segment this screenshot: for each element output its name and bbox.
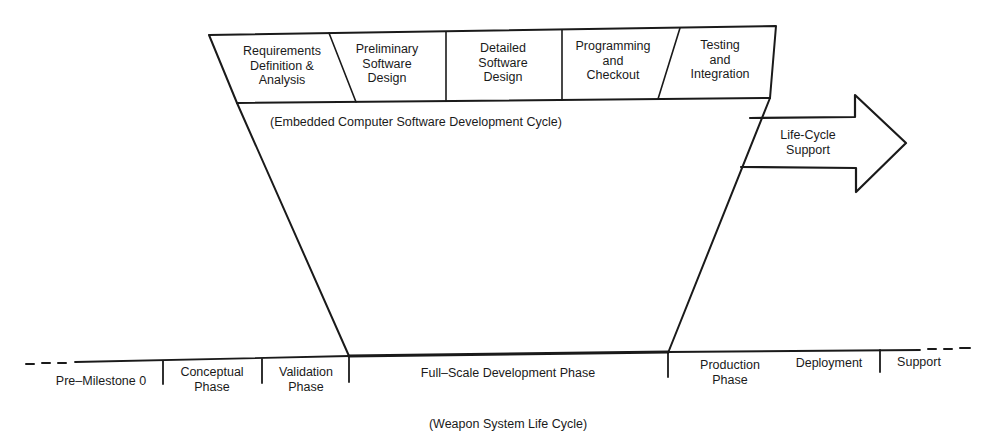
phase-divider [658,28,680,99]
phase-divider [329,33,356,102]
ws-phase-support: Support [897,355,941,370]
ws-phase-pre-milestone: Pre–Milestone 0 [56,374,146,389]
weapon-system-caption: (Weapon System Life Cycle) [429,417,587,432]
software-phase-testing-integration: Testing and Integration [690,38,749,82]
life-cycle-support-label: Life-Cycle Support [780,128,836,157]
software-phase-requirements: Requirements Definition & Analysis [243,44,321,88]
ws-phase-production: Production Phase [700,358,760,387]
development-funnel [237,98,770,356]
ws-phase-deployment: Deployment [796,356,863,371]
ws-phase-validation: Validation Phase [279,365,333,394]
software-phase-preliminary-design: Preliminary Software Design [356,42,419,86]
software-phase-detailed-design: Detailed Software Design [478,41,527,85]
software-phase-programming-checkout: Programming and Checkout [575,39,650,83]
ws-phase-conceptual: Conceptual Phase [180,365,243,394]
ws-phase-full-scale-development: Full–Scale Development Phase [421,366,595,381]
lifecycle-diagram: Requirements Definition & Analysis Preli… [0,0,1005,446]
software-cycle-caption: (Embedded Computer Software Development … [270,115,562,130]
